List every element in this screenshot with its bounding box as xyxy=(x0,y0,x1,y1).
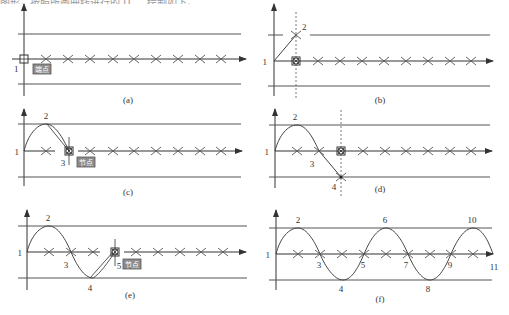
point-label: 5 xyxy=(361,260,366,270)
panel-f: 1 2 3 4 5 6 7 8 9 10 11 (f) xyxy=(266,210,499,304)
panel-d: 1 2 3 4 (d) xyxy=(265,109,493,198)
panel-e: 1 2 3 4 5 节点 (e) xyxy=(18,210,248,300)
panel-caption: (c) xyxy=(123,187,133,197)
point-label: 7 xyxy=(404,260,409,270)
point-label: 2 xyxy=(296,215,301,225)
point-label: 5 xyxy=(117,261,122,271)
point-label: 1 xyxy=(263,57,268,67)
panel-caption: (d) xyxy=(375,184,386,194)
point-label: 2 xyxy=(293,112,298,122)
point-label: 3 xyxy=(317,260,322,270)
point-label: 9 xyxy=(448,260,453,270)
point-label: 3 xyxy=(61,158,66,168)
snap-tooltip-label: 节点 xyxy=(79,159,93,167)
point-label: 6 xyxy=(383,215,388,225)
snap-tooltip-node: 节点 xyxy=(123,259,141,269)
point-label: 1 xyxy=(266,250,271,260)
node-snap-icon xyxy=(292,57,300,65)
panel-caption: (f) xyxy=(376,294,385,304)
panel-caption: (a) xyxy=(123,95,133,105)
spline-curve xyxy=(24,124,69,151)
panel-caption: (e) xyxy=(125,290,135,300)
panel-b: 1 2 (b) xyxy=(263,4,494,105)
endpoint-snap-icon xyxy=(20,55,28,63)
point-label: 10 xyxy=(468,215,478,225)
point-label: 1 xyxy=(15,147,20,157)
point-label: 1 xyxy=(265,147,270,157)
snap-tooltip-label: 端点 xyxy=(35,65,49,74)
rubber-band-line xyxy=(90,252,113,278)
point-label: 1 xyxy=(18,248,23,258)
point-label: 4 xyxy=(339,284,344,294)
point-label: 2 xyxy=(44,111,49,121)
point-label: 3 xyxy=(310,159,315,169)
panel-c: 1 2 3 节点 (c) xyxy=(15,109,243,197)
panel-caption: (b) xyxy=(375,95,386,105)
node-snap-icon xyxy=(111,248,119,256)
panel-a: 1 端点 (a) xyxy=(12,4,246,105)
snap-tooltip-node: 节点 xyxy=(77,157,95,167)
point-label: 4 xyxy=(332,182,337,192)
point-label: 11 xyxy=(490,262,499,272)
snap-tooltip-endpoint: 端点 xyxy=(33,64,51,74)
snap-tooltip-label: 节点 xyxy=(125,261,139,269)
node-snap-icon xyxy=(65,147,73,155)
point-label: 4 xyxy=(88,283,93,293)
point-label: 2 xyxy=(46,213,51,223)
point-label: 2 xyxy=(302,22,307,32)
point-label: 1 xyxy=(14,64,19,74)
point-label: 3 xyxy=(64,260,69,270)
spline-drawing-figure: 1 端点 (a) 1 2 (b) xyxy=(0,0,509,315)
node-snap-icon xyxy=(337,147,345,155)
point-label: 8 xyxy=(426,284,431,294)
